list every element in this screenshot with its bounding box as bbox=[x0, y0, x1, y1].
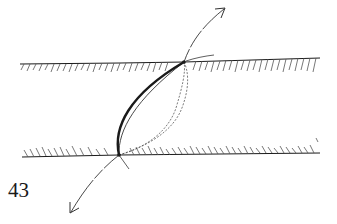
diagram-canvas bbox=[0, 0, 337, 224]
bottom-cross-stroke bbox=[119, 155, 129, 169]
bottom-boundary-line bbox=[22, 153, 320, 157]
thick-main-curve bbox=[118, 62, 184, 155]
arrow-up-shaft bbox=[184, 9, 224, 62]
bottom-node bbox=[117, 153, 121, 157]
arrow-down-shaft bbox=[71, 155, 119, 212]
top-hatching bbox=[21, 58, 316, 72]
top-node bbox=[182, 60, 186, 64]
figure-number-label: 43 bbox=[8, 180, 29, 201]
top-boundary-line bbox=[20, 58, 320, 64]
top-tangent-stroke bbox=[186, 55, 214, 61]
